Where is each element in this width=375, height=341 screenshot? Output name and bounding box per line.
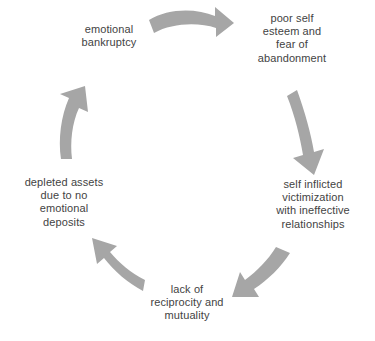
cycle-node-lack-of-reciprocity: lack of reciprocity and mutuality (128, 283, 246, 323)
arrow-right (287, 90, 324, 175)
cycle-node-self-inflicted-victimization: self inflicted victimization with ineffe… (252, 178, 374, 231)
cycle-node-emotional-bankruptcy: emotional bankruptcy (54, 23, 164, 49)
cycle-diagram: emotional bankruptcy poor self esteem an… (0, 0, 375, 341)
arrow-left (60, 86, 88, 159)
cycle-node-depleted-assets: depleted assets due to no emotional depo… (8, 176, 120, 229)
cycle-node-poor-self-esteem: poor self esteem and fear of abandonment (232, 12, 352, 65)
